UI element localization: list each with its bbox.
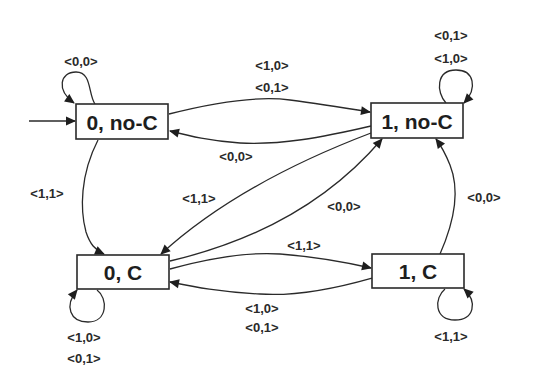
state-node-1-no-c: 1, no-C xyxy=(371,103,463,138)
edge-0-no-c-to-0-c: <1,1> xyxy=(30,140,104,254)
edge-label: <0,1> xyxy=(255,80,289,95)
state-label: 0, C xyxy=(104,261,143,284)
edge-label: <0,1> xyxy=(434,28,468,43)
state-node-0-c: 0, C xyxy=(77,255,169,289)
state-node-0-no-c: 0, no-C xyxy=(76,104,168,139)
edge-1-no-c-to-0-c: <1,1> xyxy=(161,133,371,254)
edge-label: <0,0> xyxy=(467,190,501,205)
edge-label: <1,1> xyxy=(30,186,64,201)
edge-label: <0,1> xyxy=(245,320,279,335)
edge-label: <1,0> xyxy=(67,330,101,345)
edge-label: <1,1> xyxy=(182,191,216,206)
edge-label: <0,0> xyxy=(327,199,361,214)
state-label: 1, C xyxy=(399,260,438,283)
edge-label: <1,0> xyxy=(255,58,289,73)
state-label: 1, no-C xyxy=(381,110,452,133)
edge-1-c-to-1-no-c: <0,0> xyxy=(436,139,501,254)
edge-label: <0,0> xyxy=(64,54,98,69)
self-loop-0-no-c: <0,0> xyxy=(62,54,98,105)
edge-label: <0,1> xyxy=(67,351,101,366)
state-node-1-c: 1, C xyxy=(372,254,464,288)
edge-label: <1,1> xyxy=(434,329,468,344)
edge-1-c-to-0-c: <1,0> <0,1> xyxy=(170,278,372,335)
edge-label: <0,0> xyxy=(219,149,253,164)
state-diagram: <0,0> <1,0> <0,1> <0,0> <1,1> <1,1> <0,0… xyxy=(0,0,535,385)
edge-label: <1,0> xyxy=(434,51,468,66)
edge-0-no-c-to-1-no-c: <1,0> <0,1> xyxy=(169,58,370,115)
self-loop-1-c: <1,1> xyxy=(434,289,472,344)
self-loop-0-c: <1,0> <0,1> xyxy=(67,290,104,366)
self-loop-1-no-c: <0,1> <1,0> xyxy=(434,28,472,104)
state-label: 0, no-C xyxy=(86,111,157,134)
edge-label: <1,1> xyxy=(287,238,321,253)
edge-label: <1,0> xyxy=(245,301,279,316)
